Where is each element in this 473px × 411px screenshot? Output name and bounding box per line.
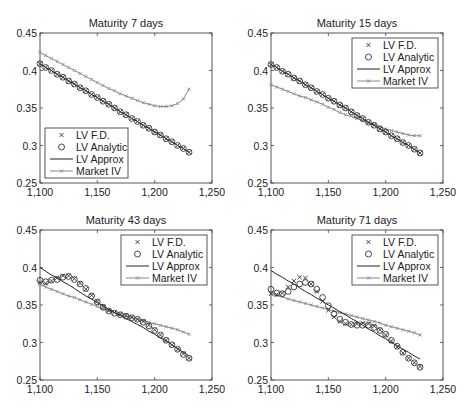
subplot-1: Maturity 7 days0.250.30.350.40.451,1001,… <box>17 17 226 198</box>
y-tick-label: 0.3 <box>22 140 37 152</box>
legend-label: LV F.D. <box>152 236 186 248</box>
x-tick-label: 1,100 <box>27 383 53 395</box>
legend-label: Market IV <box>383 75 428 87</box>
series-lv-fd <box>38 274 191 361</box>
subplot-4: Maturity 71 days0.250.30.350.40.451,1001… <box>248 214 457 395</box>
legend-label: LV F.D. <box>383 39 417 51</box>
subplot-title: Maturity 15 days <box>317 17 398 29</box>
x-tick-label: 1,150 <box>315 383 341 395</box>
series-lv-analytic <box>37 274 192 362</box>
legend-label: LV Approx <box>383 63 431 75</box>
x-tick-label: 1,200 <box>373 186 399 198</box>
x-tick-label: 1,100 <box>258 383 284 395</box>
legend: LV F.D.LV AnalyticLV ApproxMarket IV <box>121 235 207 285</box>
x-tick-label: 1,150 <box>315 186 341 198</box>
x-tick-label: 1,100 <box>258 186 284 198</box>
x-tick-label: 1,150 <box>84 383 110 395</box>
legend-label: LV Analytic <box>383 248 434 260</box>
x-tick-label: 1,150 <box>84 186 110 198</box>
legend-label: LV F.D. <box>76 129 110 141</box>
y-tick-label: 0.35 <box>248 102 269 114</box>
series-market-iv <box>269 291 421 336</box>
legend-label: LV Analytic <box>152 248 203 260</box>
y-tick-label: 0.4 <box>253 262 268 274</box>
figure-canvas: Maturity 7 days0.250.30.350.40.451,1001,… <box>0 0 473 411</box>
legend-label: LV F.D. <box>383 236 417 248</box>
x-tick-label: 1,200 <box>142 186 168 198</box>
series-lv-analytic <box>268 280 423 371</box>
legend: LV F.D.LV AnalyticLV ApproxMarket IV <box>352 38 438 88</box>
legend-label: LV Approx <box>152 260 200 272</box>
y-tick-label: 0.35 <box>17 299 38 311</box>
y-tick-label: 0.35 <box>248 299 269 311</box>
y-tick-label: 0.45 <box>248 27 269 39</box>
y-tick-label: 0.3 <box>253 337 268 349</box>
x-tick-label: 1,250 <box>199 383 225 395</box>
x-tick-label: 1,250 <box>430 383 456 395</box>
x-tick-label: 1,250 <box>430 186 456 198</box>
subplot-title: Maturity 7 days <box>89 17 164 29</box>
legend-label: LV Approx <box>76 153 124 165</box>
y-tick-label: 0.4 <box>253 65 268 77</box>
legend-label: Market IV <box>76 165 121 177</box>
subplot-title: Maturity 71 days <box>317 214 398 226</box>
subplot-title: Maturity 43 days <box>86 214 167 226</box>
y-tick-label: 0.45 <box>17 27 38 39</box>
legend-label: LV Analytic <box>383 51 434 63</box>
legend-label: LV Approx <box>383 260 431 272</box>
x-tick-label: 1,100 <box>27 186 53 198</box>
y-tick-label: 0.3 <box>22 337 37 349</box>
subplot-3: Maturity 43 days0.250.30.350.40.451,1001… <box>17 214 226 395</box>
y-tick-label: 0.45 <box>248 224 269 236</box>
y-tick-label: 0.4 <box>22 262 37 274</box>
legend: LV F.D.LV AnalyticLV ApproxMarket IV <box>45 128 128 178</box>
legend-label: LV Analytic <box>76 141 127 153</box>
y-tick-label: 0.3 <box>253 140 268 152</box>
x-tick-label: 1,200 <box>142 383 168 395</box>
legend: LV F.D.LV AnalyticLV ApproxMarket IV <box>352 235 438 285</box>
y-tick-label: 0.4 <box>22 65 37 77</box>
x-tick-label: 1,200 <box>373 383 399 395</box>
subplot-2: Maturity 15 days0.250.30.350.40.451,1001… <box>248 17 457 198</box>
y-tick-label: 0.35 <box>17 102 38 114</box>
series-market-iv <box>38 283 190 336</box>
legend-label: Market IV <box>383 272 428 284</box>
legend-label: Market IV <box>152 272 197 284</box>
y-tick-label: 0.45 <box>17 224 38 236</box>
x-tick-label: 1,250 <box>199 186 225 198</box>
series-market-iv <box>269 83 421 137</box>
